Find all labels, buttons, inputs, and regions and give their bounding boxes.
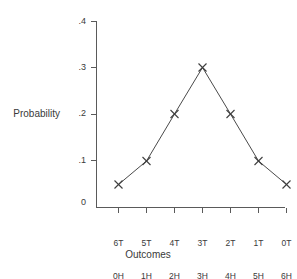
x-tick-marks: [119, 208, 287, 214]
data-point-marker: [171, 110, 179, 118]
x-tick-label-5-top: 1T: [244, 238, 274, 249]
x-tick-label-3-top: 3T: [188, 238, 218, 249]
x-tick-label-2-top: 4T: [160, 238, 190, 249]
data-point-marker: [115, 181, 123, 189]
x-tick-label-2: 4T 2H: [160, 216, 190, 279]
y-tick-label-3: .3: [64, 63, 86, 72]
x-tick-label-3-bottom: 3H: [188, 271, 218, 279]
data-point-markers: [115, 64, 291, 189]
y-tick-label-1: .1: [64, 156, 86, 165]
x-axis-title: Outcomes: [0, 250, 296, 260]
x-tick-label-2-bottom: 2H: [160, 271, 190, 279]
x-tick-label-6-bottom: 6H: [272, 271, 297, 279]
probability-series-line: [119, 68, 287, 185]
x-tick-label-1: 5T 1H: [132, 216, 162, 279]
x-tick-label-4: 2T 4H: [216, 216, 246, 279]
data-point-marker: [143, 157, 151, 165]
x-tick-label-1-bottom: 1H: [132, 271, 162, 279]
y-tick-label-4: .4: [64, 17, 86, 26]
x-tick-label-0-top: 6T: [104, 238, 134, 249]
x-tick-label-6-top: 0T: [272, 238, 297, 249]
y-axis-title: Probability: [0, 109, 60, 119]
x-tick-label-0: 6T 0H: [104, 216, 134, 279]
x-tick-label-0-bottom: 0H: [104, 271, 134, 279]
y-tick-label-2: .2: [64, 109, 86, 118]
x-tick-label-5-bottom: 5H: [244, 271, 274, 279]
y-tick-marks: [91, 22, 97, 161]
x-tick-label-6: 0T 6H: [272, 216, 297, 279]
x-tick-label-5: 1T 5H: [244, 216, 274, 279]
x-tick-label-4-top: 2T: [216, 238, 246, 249]
x-tick-label-1-top: 5T: [132, 238, 162, 249]
x-tick-label-3: 3T 3H: [188, 216, 218, 279]
data-point-marker: [283, 181, 291, 189]
data-point-marker: [255, 157, 263, 165]
chart-figure: .4 .3 .2 .1 0 Probability 6T 0H 5T 1H 4T…: [0, 0, 296, 279]
data-point-marker: [227, 110, 235, 118]
x-tick-label-4-bottom: 4H: [216, 271, 246, 279]
data-point-marker: [199, 64, 207, 72]
y-tick-label-0: 0: [64, 198, 86, 207]
